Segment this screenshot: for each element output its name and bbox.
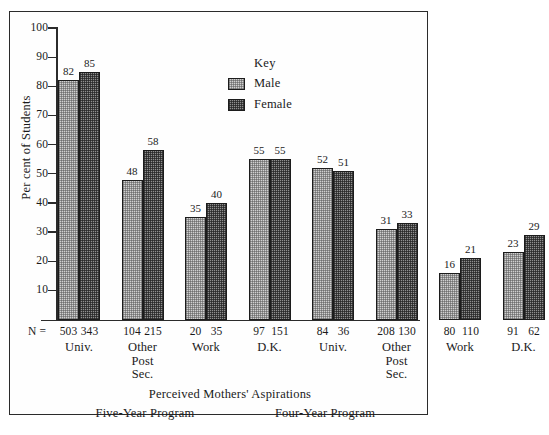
bar-male (185, 217, 206, 319)
bar-value-label: 40 (202, 189, 231, 200)
category-label: D.K. (490, 341, 549, 355)
category-label: OtherPostSec. (109, 341, 177, 382)
bar-female (460, 258, 481, 319)
legend-label-male: Male (254, 76, 280, 91)
legend-swatch-male-icon (228, 78, 245, 90)
legend-item-male: Male (228, 76, 348, 91)
n-value-label: 215 (139, 325, 168, 337)
legend-label-female: Female (254, 97, 292, 112)
category-label: OtherPostSec. (363, 341, 431, 382)
bar-female (143, 150, 164, 319)
bar-value-label: 58 (139, 136, 168, 147)
legend-swatch-female-icon (228, 99, 245, 111)
bar-male (503, 252, 524, 319)
y-axis-label: Per cent of Students (19, 18, 34, 278)
y-tick-mark (48, 27, 56, 28)
bar-male (312, 168, 333, 320)
y-tick-mark (48, 261, 56, 262)
n-value-label: 110 (456, 325, 485, 337)
bar-value-label: 55 (266, 145, 295, 156)
n-value-label: 36 (329, 325, 358, 337)
y-tick-label-wrap: 10 (0, 284, 48, 296)
bar-female (79, 72, 100, 320)
category-label: Univ. (299, 341, 367, 355)
legend-title: Key (254, 56, 348, 71)
bar-male (58, 80, 79, 319)
y-tick-mark (48, 202, 56, 203)
bar-female (333, 171, 354, 320)
bar-value-label: 51 (329, 157, 358, 168)
y-tick-mark (48, 290, 56, 291)
bar-female (270, 159, 291, 319)
category-label: Work (426, 341, 494, 355)
bar-value-label: 21 (456, 244, 485, 255)
n-value-label: 62 (520, 325, 549, 337)
y-tick-label: 10 (4, 284, 48, 296)
bar-female (206, 203, 227, 320)
n-value-label: 343 (75, 325, 104, 337)
bar-female (397, 223, 418, 319)
bar-value-label: 29 (520, 221, 549, 232)
program-annotation-five-year: Five-Year Program (55, 406, 235, 421)
bar-male (439, 273, 460, 320)
y-tick-mark (48, 231, 56, 232)
bar-male (376, 229, 397, 319)
n-value-label: 151 (266, 325, 295, 337)
bar-female (524, 235, 545, 320)
y-tick-mark (48, 86, 56, 87)
bar-value-label: 85 (75, 58, 104, 69)
y-tick-mark (48, 57, 56, 58)
category-label: D.K. (236, 341, 304, 355)
category-label: Work (172, 341, 240, 355)
n-value-label: 35 (202, 325, 231, 337)
bar-value-label: 33 (393, 209, 422, 220)
y-tick-mark (48, 115, 56, 116)
bar-male (122, 180, 143, 320)
program-annotation-four-year: Four-Year Program (235, 406, 415, 421)
y-tick-mark (48, 144, 56, 145)
legend: Key Male Female (228, 56, 348, 118)
y-tick-mark (48, 173, 56, 174)
legend-item-female: Female (228, 97, 348, 112)
n-prefix-label: N = (28, 325, 46, 337)
bar-male (249, 159, 270, 319)
x-axis-label: Perceived Mothers' Aspirations (120, 387, 340, 402)
category-label: Univ. (45, 341, 113, 355)
n-value-label: 130 (393, 325, 422, 337)
